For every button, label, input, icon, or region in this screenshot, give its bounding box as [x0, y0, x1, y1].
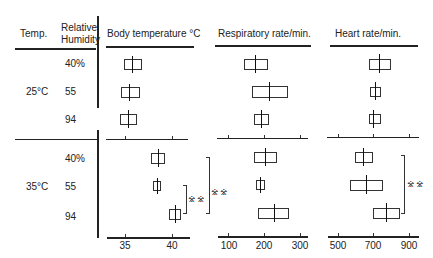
mean-marker: [132, 56, 133, 73]
x-axis-resp: [218, 236, 308, 238]
mid-tick: [264, 135, 265, 138]
x-tick-label: 100: [221, 240, 238, 251]
x-tick: [338, 233, 339, 236]
mid-tick: [409, 134, 410, 137]
box-heart-25-94: [369, 114, 381, 124]
mid-axis-heart: [327, 137, 419, 138]
x-tick-label: 35: [119, 240, 130, 251]
x-tick: [228, 233, 229, 236]
header-rh-line1: Relative: [61, 22, 100, 34]
mean-marker: [128, 110, 129, 128]
significance-mark: ※※: [188, 194, 206, 204]
header-respiratory-rate: Respiratory rate/min.: [218, 28, 311, 39]
x-tick-label: 40: [166, 240, 177, 251]
row-label-rh: 40%: [65, 153, 85, 164]
x-tick-label: 500: [330, 240, 347, 251]
mean-marker: [129, 84, 130, 101]
x-tick: [300, 233, 301, 236]
mid-axis-resp: [217, 138, 308, 139]
x-axis-heart: [328, 236, 419, 238]
x-tick: [373, 233, 374, 236]
mean-marker: [260, 177, 261, 193]
group-temp-35: 35°C: [26, 181, 48, 192]
significance-mark: ※※: [211, 187, 229, 197]
mean-marker: [366, 175, 367, 194]
group-temp-25: 25°C: [26, 86, 48, 97]
row-label-rh: 94: [65, 211, 76, 222]
mid-axis-bodytemp: [106, 139, 188, 140]
mean-marker: [274, 204, 275, 222]
mean-marker: [379, 54, 380, 73]
significance-mark: ※※: [407, 179, 425, 189]
mid-tick: [373, 134, 374, 137]
mean-marker: [175, 205, 176, 223]
box-bodytemp-25-55: [121, 87, 140, 98]
mean-marker: [265, 148, 266, 166]
header-underline-resp: [215, 45, 311, 47]
mean-marker: [373, 110, 374, 128]
mid-tick: [338, 134, 339, 137]
row-label-rh: 55: [65, 181, 76, 192]
row-label-rh: 55: [65, 86, 76, 97]
header-relative-humidity: Relative Humidity: [61, 22, 100, 46]
header-underline-heart: [330, 45, 418, 47]
header-rh-line2: Humidity: [61, 34, 100, 46]
mid-tick: [172, 136, 173, 139]
mean-marker: [363, 148, 364, 166]
significance-bracket-bodytemp-inner: [183, 185, 187, 214]
mean-marker: [158, 149, 159, 167]
x-tick: [264, 233, 265, 236]
x-tick: [125, 234, 126, 237]
header-body-temperature: Body temperature °C: [107, 28, 201, 39]
header-underline-bodytemp: [106, 46, 194, 48]
header-heart-rate: Heart rate/min.: [335, 28, 401, 39]
significance-bracket-heart: [401, 155, 405, 214]
x-tick-label: 900: [401, 240, 418, 251]
mean-marker: [157, 178, 158, 194]
header-underline-left: [15, 48, 96, 50]
mid-tick: [300, 135, 301, 138]
x-tick: [409, 233, 410, 236]
row-label-rh: 94: [65, 114, 76, 125]
x-axis-bodytemp: [107, 237, 190, 239]
x-tick-label: 300: [292, 240, 309, 251]
mean-marker: [375, 82, 376, 100]
x-tick-label: 700: [365, 240, 382, 251]
mean-marker: [261, 110, 262, 128]
group-separator: [15, 139, 97, 140]
vertical-divider-top: [97, 16, 99, 108]
header-temp: Temp.: [20, 28, 47, 39]
mean-marker: [386, 203, 387, 222]
mean-marker: [255, 55, 256, 73]
significance-bracket-bodytemp-outer: [206, 157, 210, 214]
row-label-rh: 40%: [65, 58, 85, 69]
mid-tick: [125, 136, 126, 139]
mid-tick: [228, 135, 229, 138]
mean-marker: [269, 82, 270, 101]
vertical-divider-bottom: [97, 130, 99, 238]
x-tick-label: 200: [256, 240, 273, 251]
x-tick: [172, 234, 173, 237]
